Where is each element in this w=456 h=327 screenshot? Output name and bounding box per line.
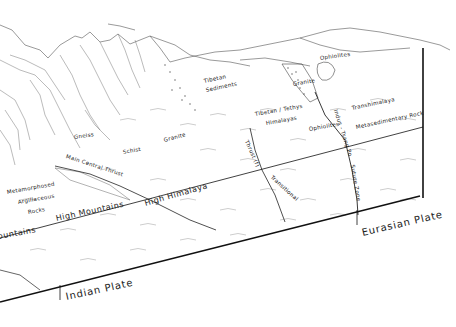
thrust-fault-line [250,128,285,222]
left-thrust-line [0,270,40,290]
block-diagram [0,0,456,327]
mountain-skyline [0,24,450,66]
main-central-thrust-line [55,166,216,230]
ophiolite-knob [317,62,335,80]
left-massif-hatching [0,34,145,165]
